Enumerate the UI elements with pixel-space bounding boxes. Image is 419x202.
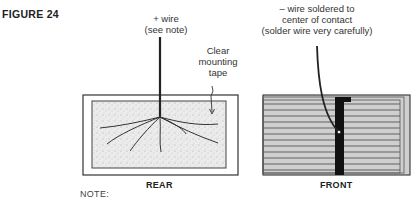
center-contact-bar: [335, 97, 344, 175]
front-caption: FRONT: [320, 180, 353, 190]
rear-panel: [83, 37, 238, 175]
center-contact-hook: [335, 97, 351, 102]
diagram-canvas: [0, 0, 419, 202]
rear-caption: REAR: [146, 180, 173, 190]
note-label: NOTE:: [80, 189, 109, 199]
solder-point: [337, 130, 340, 133]
front-panel: [263, 46, 410, 175]
